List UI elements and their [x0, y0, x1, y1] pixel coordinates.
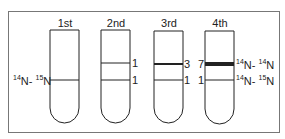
label-14n-15n-left: 14N- 15N — [13, 75, 51, 87]
count-3rd-lower: 1 — [184, 74, 190, 86]
tube-1st — [50, 30, 79, 123]
label-gen-3rd: 3rd — [149, 17, 189, 29]
count-2nd-lower: 1 — [132, 74, 138, 86]
tube-4th — [205, 31, 234, 124]
count-4th-upper: 7 — [198, 58, 204, 70]
label-gen-4th: 4th — [200, 17, 240, 29]
label-gen-1st: 1st — [45, 17, 85, 29]
tube-2nd — [101, 30, 130, 123]
count-3rd-upper: 3 — [184, 58, 190, 70]
label-gen-2nd: 2nd — [96, 17, 136, 29]
label-14n-14n-right: 14N- 14N — [236, 59, 274, 71]
tube-3rd — [154, 31, 183, 123]
count-4th-lower: 1 — [198, 74, 204, 86]
count-2nd-upper: 1 — [132, 57, 138, 69]
label-14n-15n-right: 14N- 15N — [236, 75, 274, 87]
